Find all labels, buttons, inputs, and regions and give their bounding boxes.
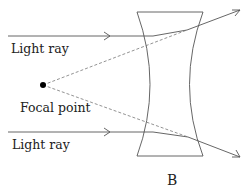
bottom-ray-label: Light ray bbox=[12, 139, 70, 152]
top-ray-label: Light ray bbox=[11, 43, 69, 56]
focal-point-dot bbox=[40, 82, 46, 88]
top-virtual-ray bbox=[43, 30, 187, 85]
diagram-graphic bbox=[0, 0, 242, 194]
caption-label: B bbox=[167, 173, 177, 187]
focal-point-label: Focal point bbox=[20, 102, 91, 115]
bottom-out-arrow-icon bbox=[232, 150, 240, 157]
lens-diagram: Light ray Focal point Light ray B bbox=[0, 0, 242, 194]
